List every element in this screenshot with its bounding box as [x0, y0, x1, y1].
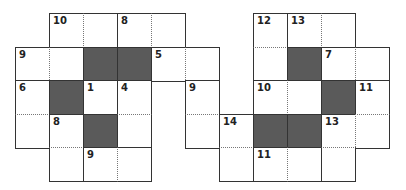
grid-cell[interactable]: 5	[151, 47, 186, 82]
clue-number: 12	[257, 15, 271, 26]
grid-cell[interactable]: 8	[117, 13, 152, 48]
grid-cell[interactable]: 10	[253, 80, 288, 115]
black-cell	[253, 114, 288, 149]
clue-number: 9	[87, 149, 94, 160]
clue-number: 4	[121, 82, 128, 93]
clue-number: 13	[325, 116, 339, 127]
grid-cell[interactable]	[355, 47, 390, 82]
grid-cell[interactable]: 11	[253, 147, 288, 182]
grid-cell[interactable]	[321, 13, 356, 48]
clue-number: 11	[257, 149, 271, 160]
grid-cell[interactable]: 8	[49, 114, 84, 149]
clue-number: 13	[291, 15, 305, 26]
clue-number: 6	[19, 82, 26, 93]
clue-number: 7	[325, 49, 332, 60]
grid-cell[interactable]	[117, 147, 152, 182]
black-cell	[321, 80, 356, 115]
grid-cell[interactable]: 11	[355, 80, 390, 115]
grid-cell[interactable]	[321, 147, 356, 182]
grid-cell[interactable]: 13	[287, 13, 322, 48]
grid-cell[interactable]: 1	[83, 80, 118, 115]
clue-number: 9	[189, 82, 196, 93]
black-cell	[83, 114, 118, 149]
grid-cell[interactable]: 10	[49, 13, 84, 48]
grid-cell[interactable]: 14	[219, 114, 254, 149]
grid-cell[interactable]: 4	[117, 80, 152, 115]
clue-number: 8	[121, 15, 128, 26]
clue-number: 8	[53, 116, 60, 127]
grid-cell[interactable]	[117, 114, 152, 149]
grid-cell[interactable]	[287, 147, 322, 182]
grid-cell[interactable]	[83, 13, 118, 48]
grid-cell[interactable]	[151, 13, 186, 48]
grid-cell[interactable]: 7	[321, 47, 356, 82]
grid-cell[interactable]	[185, 114, 220, 149]
clue-number: 1	[87, 82, 94, 93]
clue-number: 9	[19, 49, 26, 60]
black-cell	[49, 80, 84, 115]
grid-cell[interactable]: 12	[253, 13, 288, 48]
grid-cell[interactable]	[253, 47, 288, 82]
grid-cell[interactable]	[49, 47, 84, 82]
grid-cell[interactable]	[287, 80, 322, 115]
grid-cell[interactable]	[219, 147, 254, 182]
clue-number: 11	[359, 82, 373, 93]
black-cell	[287, 47, 322, 82]
grid-cell[interactable]	[355, 114, 390, 149]
grid-cell[interactable]: 9	[83, 147, 118, 182]
grid-cell[interactable]: 13	[321, 114, 356, 149]
grid-cell[interactable]	[15, 114, 50, 149]
grid-cell[interactable]	[185, 47, 220, 82]
clue-number: 10	[53, 15, 67, 26]
black-cell	[287, 114, 322, 149]
puzzle-grid: 10812139576149101181413911	[0, 0, 406, 190]
grid-cell[interactable]: 6	[15, 80, 50, 115]
clue-number: 14	[223, 116, 237, 127]
black-cell	[83, 47, 118, 82]
black-cell	[117, 47, 152, 82]
grid-cell[interactable]: 9	[185, 80, 220, 115]
grid-cell[interactable]: 9	[15, 47, 50, 82]
clue-number: 5	[155, 49, 162, 60]
clue-number: 10	[257, 82, 271, 93]
grid-cell[interactable]	[49, 147, 84, 182]
